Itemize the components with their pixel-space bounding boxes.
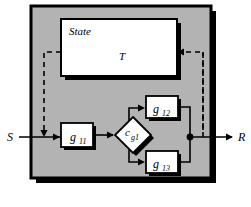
g11-subscript: 11 — [79, 137, 86, 146]
block-diagram-canvas: State T g 11 c g1 g 12 g 13 S R — [0, 0, 251, 207]
state-block-label: State — [69, 25, 91, 37]
diagram-root: State T g 11 c g1 g 12 g 13 S R — [0, 0, 251, 207]
cg1-subscript: g1 — [131, 133, 139, 142]
output-port-label: R — [237, 130, 246, 144]
input-port-label: S — [7, 130, 13, 144]
g12-label: g — [153, 102, 159, 116]
g12-subscript: 12 — [162, 109, 170, 118]
g13-subscript: 13 — [162, 164, 170, 173]
state-transfer-label: T — [119, 50, 126, 62]
output-arrowhead — [226, 133, 233, 140]
g11-label: g — [70, 130, 76, 144]
g13-label: g — [153, 157, 159, 171]
g11-block[interactable] — [61, 123, 93, 147]
cg1-label: c — [125, 126, 130, 138]
